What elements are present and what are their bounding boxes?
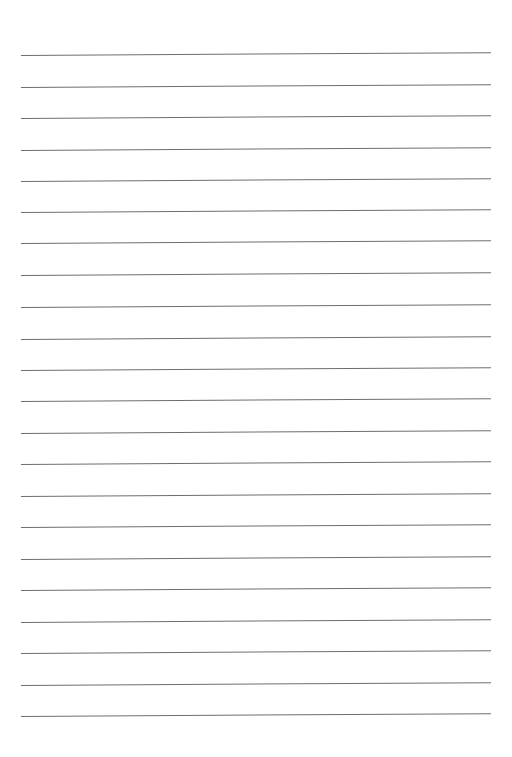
ruled-line [21, 650, 491, 654]
ruled-line [21, 524, 491, 528]
ruled-line [21, 209, 491, 213]
ruled-line [21, 336, 491, 340]
ruled-line [21, 619, 491, 623]
ruled-line [21, 272, 491, 276]
ruled-line [21, 713, 491, 717]
ruled-line [21, 304, 491, 308]
ruled-line [21, 461, 491, 465]
ruled-line [21, 178, 491, 182]
ruled-line [21, 682, 491, 686]
ruled-line [21, 147, 491, 151]
ruled-line [21, 240, 491, 244]
ruled-line [21, 398, 491, 402]
ruled-line [21, 115, 491, 119]
lined-paper-page [0, 0, 512, 757]
ruled-line [21, 556, 491, 560]
ruled-line [21, 587, 491, 591]
ruled-line [21, 52, 491, 56]
ruled-line [21, 84, 491, 88]
ruled-line [21, 430, 491, 434]
ruled-line [21, 367, 491, 371]
ruled-line [21, 493, 491, 497]
